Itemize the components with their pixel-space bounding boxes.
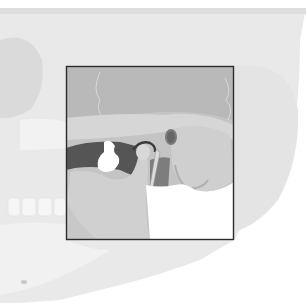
tmj-focus-region <box>66 66 234 240</box>
tmj-illustration <box>0 0 306 303</box>
skull-drawing <box>0 0 306 303</box>
